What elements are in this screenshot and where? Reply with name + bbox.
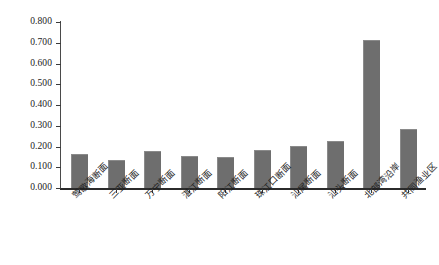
bars-layer [61,22,426,188]
y-tick-label: 0.300 [4,120,52,130]
y-tick-label: 0.600 [4,58,52,68]
y-tick-mark [56,188,61,189]
y-tick-label: 0.500 [4,78,52,88]
y-tick-label: 0.200 [4,141,52,151]
y-tick-label: 0.700 [4,37,52,47]
bar [363,40,380,188]
y-tick-label: 0.800 [4,16,52,26]
y-tick-label: 0.400 [4,99,52,109]
y-tick-label: 0.000 [4,182,52,192]
y-tick-label: 0.100 [4,161,52,171]
